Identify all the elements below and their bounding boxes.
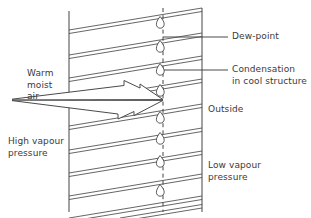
label-high-vapour-line2: pressure [8, 148, 48, 158]
hatch-pair [69, 196, 202, 218]
label-outside: Outside [208, 104, 243, 116]
hatch-pair [69, 128, 202, 154]
label-warm-moist-air-line1: Warm [27, 68, 54, 78]
droplet-icon [156, 64, 164, 76]
label-low-vapour-pressure: Low vapourpressure [208, 160, 261, 183]
label-high-vapour-line1: High vapour [8, 136, 64, 146]
label-low-vapour-line2: pressure [208, 172, 248, 182]
hatch-pair [69, 8, 202, 34]
droplet-icon [156, 185, 164, 197]
label-condensation-line1: Condensation [232, 64, 295, 74]
droplet-icon [156, 112, 164, 124]
wall-condensation-diagram: Dew-point Condensationin cool structure … [0, 0, 311, 218]
label-dew-point: Dew-point [232, 31, 279, 43]
arrow-lower-branch [12, 100, 163, 119]
hatch-pair [69, 174, 202, 200]
droplet-icon [156, 41, 164, 53]
label-high-vapour-pressure: High vapourpressure [8, 136, 64, 159]
label-condensation-line2: in cool structure [232, 76, 307, 86]
label-warm-moist-air-line3: air [27, 91, 39, 101]
hatch-pair [69, 151, 202, 177]
label-condensation: Condensationin cool structure [232, 64, 307, 87]
label-warm-moist-air-line2: moist [27, 80, 53, 90]
hatch-pair [69, 56, 202, 82]
label-low-vapour-line1: Low vapour [208, 160, 261, 170]
label-warm-moist-air: Warmmoistair [27, 68, 54, 103]
